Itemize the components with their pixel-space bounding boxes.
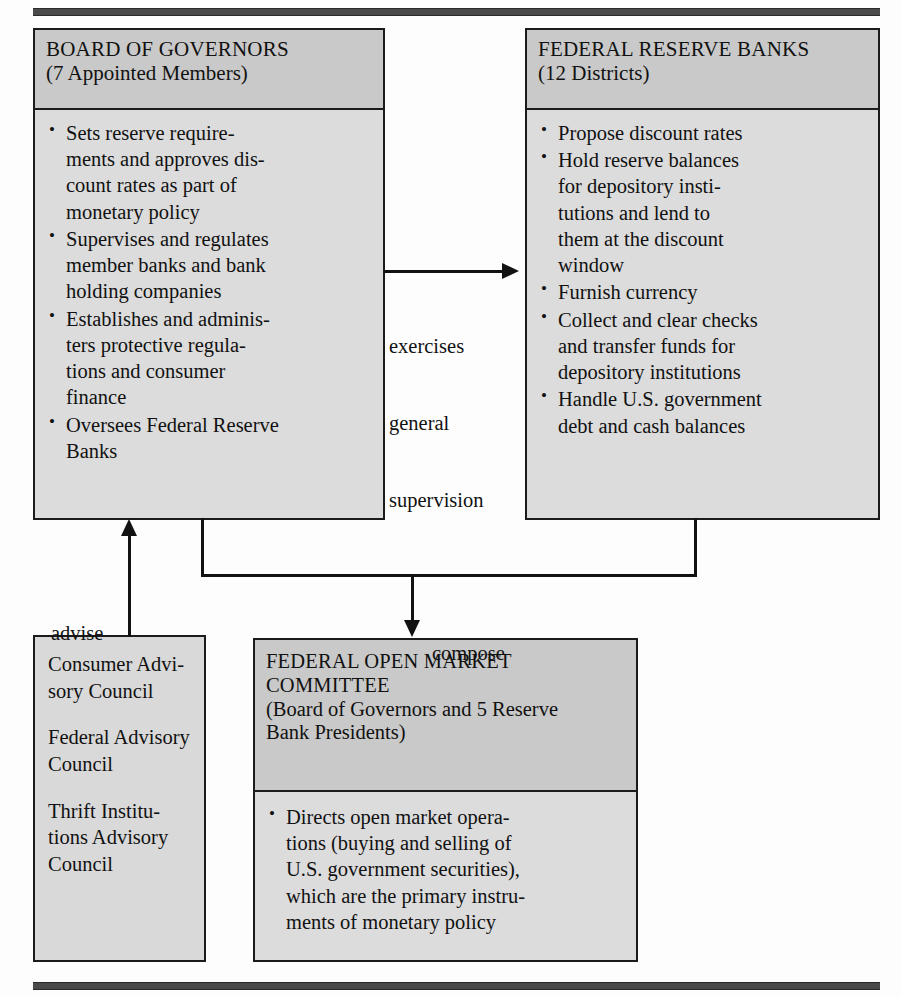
bullet-line: Directs open market opera- [286, 804, 626, 830]
bullet-line: Establishes and adminis- [66, 306, 373, 332]
bullet-line: ments of monetary policy [286, 909, 626, 935]
bullet-line: tions (buying and selling of [286, 830, 626, 856]
fomc-body: Directs open market opera- tions (buying… [255, 792, 636, 960]
edge-label-compose: compose [432, 590, 505, 718]
bullet-line: debt and cash balances [558, 413, 868, 439]
edge-label-advise: advise [51, 570, 103, 698]
list-item: Furnish currency [541, 279, 868, 305]
box-board-of-governors: BOARD OF GOVERNORS (7 Appointed Members)… [33, 28, 385, 520]
bullet-line: finance [66, 384, 373, 410]
bullet-line: Furnish currency [558, 279, 868, 305]
bullet-line: Sets reserve require- [66, 120, 373, 146]
bullet-line: tutions and lend to [558, 200, 868, 226]
supervision-label-line: general [389, 411, 484, 437]
advise-label-text: advise [51, 621, 103, 647]
advisory-council-thrift: Thrift Institu- tions Advisory Council [48, 798, 193, 878]
bullet-line: them at the discount [558, 226, 868, 252]
box-federal-reserve-banks: FEDERAL RESERVE BANKS (12 Districts) Pro… [525, 28, 880, 520]
compose-right-drop [694, 518, 697, 577]
list-item: Collect and clear checks and transfer fu… [541, 307, 868, 386]
supervision-arrowhead-icon [502, 263, 519, 279]
compose-left-drop [201, 518, 204, 577]
fomc-subtitle-line-2: Bank Presidents) [266, 721, 626, 745]
list-item: Hold reserve balances for depository ins… [541, 147, 868, 278]
advisory-council-federal: Federal Advisory Council [48, 724, 193, 777]
federal-reserve-banks-body: Propose discount rates Hold reserve bala… [527, 110, 878, 518]
bullet-line: tions and consumer [66, 358, 373, 384]
bullet-line: Supervises and regulates [66, 226, 373, 252]
bullet-line: holding companies [66, 278, 373, 304]
list-item: Handle U.S. government debt and cash bal… [541, 386, 868, 438]
bullet-line: for depository insti- [558, 173, 868, 199]
board-of-governors-title: BOARD OF GOVERNORS [46, 37, 373, 61]
advise-arrowhead-icon [121, 519, 137, 536]
board-of-governors-bullet-list: Sets reserve require- ments and approves… [49, 120, 373, 464]
list-item: Supervises and regulates member banks an… [49, 226, 373, 305]
advisory-line: tions Advisory [48, 824, 193, 851]
advisory-line: Council [48, 851, 193, 878]
bullet-line: Hold reserve balances [558, 147, 868, 173]
bullet-line: count rates as part of [66, 172, 373, 198]
supervision-label-line: supervision [389, 488, 484, 514]
bottom-rule [33, 982, 880, 990]
edge-label-supervision: exercises general supervision [389, 283, 484, 565]
list-item: Establishes and adminis- ters protective… [49, 306, 373, 411]
bullet-line: window [558, 252, 868, 278]
list-item: Oversees Federal Reserve Banks [49, 412, 373, 464]
list-item: Directs open market opera- tions (buying… [269, 804, 626, 935]
bullet-line: Handle U.S. government [558, 386, 868, 412]
bullet-line: Propose discount rates [558, 120, 868, 146]
federal-reserve-banks-title: FEDERAL RESERVE BANKS [538, 37, 868, 61]
supervision-arrow-shaft [384, 270, 502, 273]
fomc-bullet-list: Directs open market opera- tions (buying… [269, 804, 626, 935]
bullet-line: ments and approves dis- [66, 146, 373, 172]
bullet-line: which are the primary instru- [286, 883, 626, 909]
list-item: Propose discount rates [541, 120, 868, 146]
bullet-line: Oversees Federal Reserve [66, 412, 373, 438]
compose-label-text: compose [432, 641, 505, 667]
board-of-governors-header: BOARD OF GOVERNORS (7 Appointed Members) [35, 30, 383, 110]
federal-reserve-banks-bullet-list: Propose discount rates Hold reserve bala… [541, 120, 868, 439]
board-of-governors-subtitle: (7 Appointed Members) [46, 61, 373, 85]
advisory-line: Thrift Institu- [48, 798, 193, 825]
advise-arrow-shaft [128, 535, 131, 637]
list-item: Sets reserve require- ments and approves… [49, 120, 373, 225]
federal-reserve-banks-subtitle: (12 Districts) [538, 61, 868, 85]
top-rule [33, 8, 880, 16]
bullet-line: monetary policy [66, 199, 373, 225]
bullet-line: U.S. government securities), [286, 856, 626, 882]
supervision-label-line: exercises [389, 334, 484, 360]
bullet-line: member banks and bank [66, 252, 373, 278]
compose-arrowhead-icon [404, 620, 420, 637]
compose-crossbar [201, 574, 697, 577]
bullet-line: depository institutions [558, 359, 868, 385]
federal-reserve-banks-header: FEDERAL RESERVE BANKS (12 Districts) [527, 30, 878, 110]
bullet-line: Collect and clear checks [558, 307, 868, 333]
bullet-line: and transfer funds for [558, 333, 868, 359]
compose-arrow-shaft [411, 574, 414, 622]
advisory-line: Council [48, 751, 193, 778]
diagram-canvas: BOARD OF GOVERNORS (7 Appointed Members)… [0, 0, 902, 997]
bullet-line: ters protective regula- [66, 332, 373, 358]
bullet-line: Banks [66, 438, 373, 464]
advisory-line: Federal Advisory [48, 724, 193, 751]
board-of-governors-body: Sets reserve require- ments and approves… [35, 110, 383, 518]
